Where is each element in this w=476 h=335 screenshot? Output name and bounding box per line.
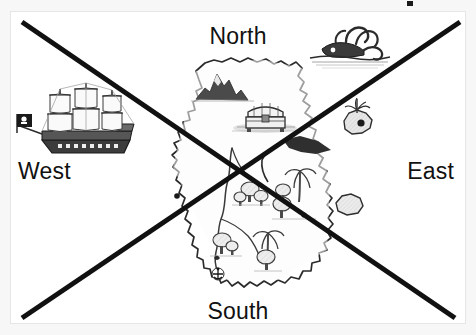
palm-islet-icon — [344, 98, 372, 134]
compass-label-east: East — [407, 158, 454, 185]
island-dot-marker — [174, 193, 180, 199]
pirate-ship-icon — [17, 83, 134, 153]
map-screenshot: North South West East — [0, 0, 476, 335]
compass-label-south: South — [0, 298, 476, 325]
rock-islet-icon — [336, 194, 363, 215]
compass-label-north: North — [0, 23, 476, 50]
compass-label-west: West — [18, 158, 71, 185]
map-illustration — [0, 0, 476, 335]
main-island — [172, 58, 333, 287]
anchor-marker-icon — [212, 268, 224, 280]
